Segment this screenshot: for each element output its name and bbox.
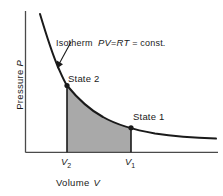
isotherm-equals-2: =: [132, 38, 137, 48]
isotherm-annotation: Isotherm PV=RT = const.: [56, 38, 166, 48]
y-axis-label-text: Pressure: [14, 69, 25, 109]
x-tick-label-v1: V1: [125, 156, 135, 169]
tick-v1-subscript: 1: [131, 162, 135, 169]
x-axis-label-symbol: V: [90, 177, 101, 188]
tick-v2-subscript: 2: [67, 162, 71, 169]
x-axis-label: VolumeV: [56, 178, 100, 188]
pv-isotherm-figure: Isotherm PV=RT = const. State 2 State 1 …: [0, 0, 223, 196]
isotherm-pv-symbol: PV: [98, 37, 111, 48]
isotherm-word: Isotherm: [56, 38, 93, 48]
y-axis-label: Pressure P: [15, 45, 25, 125]
isotherm-rt-symbol: RT: [117, 37, 130, 48]
state-2-label: State 2: [68, 74, 100, 84]
plot-canvas: [0, 0, 223, 196]
x-tick-label-v2: V2: [61, 156, 71, 169]
x-axis-label-text: Volume: [56, 177, 90, 188]
isotherm-const-text: const.: [140, 38, 165, 48]
state1-point-marker: [128, 125, 133, 130]
state-1-label: State 1: [133, 112, 165, 122]
y-axis-label-symbol: P: [14, 60, 25, 67]
